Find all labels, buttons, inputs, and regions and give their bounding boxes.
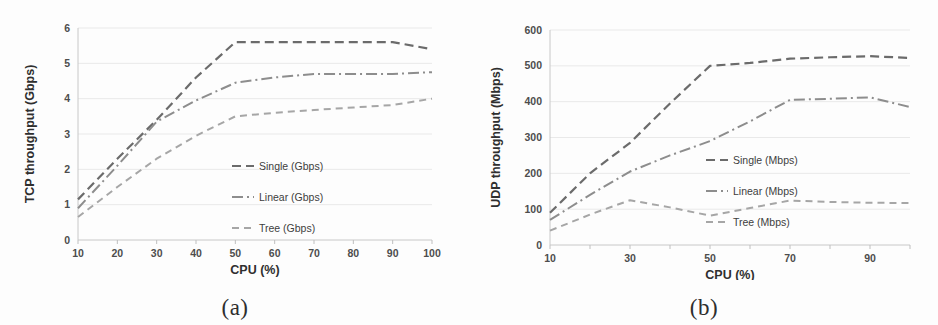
y-axis-tick-label: 6 — [64, 22, 70, 34]
figure-container: 0123456102030405060708090100CPU (%)TCP t… — [0, 0, 938, 325]
y-axis-tick-label: 400 — [524, 95, 542, 107]
x-axis-tick-label: 50 — [229, 247, 241, 259]
series-line-0 — [550, 56, 910, 213]
legend-label-0: Single (Gbps) — [259, 160, 323, 172]
legend-label-0: Single (Mbps) — [733, 154, 798, 166]
x-axis-tick-label: 90 — [864, 252, 876, 264]
chart-a-plot-area: 0123456102030405060708090100CPU (%)TCP t… — [0, 0, 470, 280]
y-axis-tick-label: 0 — [536, 239, 542, 251]
chart-b-plot-area: 01002003004005006001030507090CPU (%)UDP … — [470, 0, 938, 280]
tcp-throughput-line-chart: 0123456102030405060708090100CPU (%)TCP t… — [0, 0, 470, 280]
x-axis-tick-label: 20 — [111, 247, 123, 259]
series-line-0 — [78, 42, 432, 199]
x-axis-tick-label: 100 — [423, 247, 441, 259]
legend-label-2: Tree (Gbps) — [259, 222, 315, 234]
y-axis-title: TCP throughput (Gbps) — [23, 65, 37, 204]
series-line-1 — [78, 72, 432, 208]
legend-label-1: Linear (Mbps) — [733, 185, 798, 197]
series-line-2 — [550, 200, 910, 230]
x-axis-tick-label: 10 — [72, 247, 84, 259]
legend-label-1: Linear (Gbps) — [259, 191, 323, 203]
y-axis-tick-label: 0 — [64, 234, 70, 246]
x-axis-tick-label: 80 — [347, 247, 359, 259]
x-axis-title: CPU (%) — [230, 263, 279, 277]
x-axis-tick-label: 30 — [151, 247, 163, 259]
x-axis-tick-label: 70 — [308, 247, 320, 259]
y-axis-tick-label: 100 — [524, 203, 542, 215]
x-axis-tick-label: 40 — [190, 247, 202, 259]
x-axis-tick-label: 50 — [704, 252, 716, 264]
y-axis-tick-label: 300 — [524, 131, 542, 143]
y-axis-tick-label: 5 — [64, 57, 70, 69]
y-axis-tick-label: 500 — [524, 59, 542, 71]
x-axis-tick-label: 70 — [784, 252, 796, 264]
udp-throughput-line-chart: 01002003004005006001030507090CPU (%)UDP … — [470, 0, 938, 280]
y-axis-tick-label: 4 — [64, 92, 70, 104]
y-axis-tick-label: 200 — [524, 167, 542, 179]
y-axis-tick-label: 1 — [64, 198, 70, 210]
x-axis-tick-label: 10 — [544, 252, 556, 264]
y-axis-tick-label: 600 — [524, 24, 542, 36]
y-axis-title: UDP throughput (Mbps) — [489, 67, 503, 208]
chart-panel-b: 01002003004005006001030507090CPU (%)UDP … — [470, 0, 938, 325]
panel-b-caption: (b) — [470, 295, 938, 321]
chart-panel-a: 0123456102030405060708090100CPU (%)TCP t… — [0, 0, 470, 325]
series-line-2 — [78, 99, 432, 217]
x-axis-tick-label: 90 — [387, 247, 399, 259]
y-axis-tick-label: 2 — [64, 163, 70, 175]
x-axis-tick-label: 30 — [624, 252, 636, 264]
legend-label-2: Tree (Mbps) — [733, 216, 790, 228]
y-axis-tick-label: 3 — [64, 128, 70, 140]
x-axis-tick-label: 60 — [269, 247, 281, 259]
panel-a-caption: (a) — [0, 295, 470, 321]
x-axis-title: CPU (%) — [705, 268, 754, 280]
